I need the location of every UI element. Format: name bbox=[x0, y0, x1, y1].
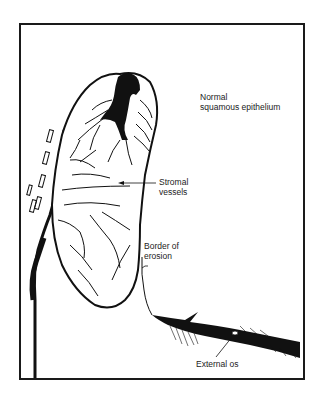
ectropion-outline bbox=[52, 73, 157, 308]
label-normal-epithelium: Normal squamous epithelium bbox=[200, 92, 280, 112]
cervix-diagram: Normal squamous epithelium Stromal vesse… bbox=[0, 0, 317, 402]
label-external-os: External os bbox=[196, 359, 239, 369]
gland-crypts bbox=[27, 130, 54, 213]
label-line: erosion bbox=[144, 251, 179, 261]
label-line: Stromal bbox=[159, 177, 188, 187]
label-line: Normal bbox=[200, 92, 280, 102]
label-line: vessels bbox=[159, 187, 188, 197]
label-line: External os bbox=[196, 359, 239, 369]
label-line: Border of bbox=[144, 241, 179, 251]
label-stromal-vessels: Stromal vessels bbox=[159, 177, 188, 197]
label-border-of-erosion: Border of erosion bbox=[144, 241, 179, 261]
external-os-lip bbox=[152, 312, 300, 358]
label-line: squamous epithelium bbox=[200, 102, 280, 112]
cervix-illustration bbox=[0, 0, 317, 402]
external-os-opening bbox=[232, 331, 238, 335]
external-os-pointer bbox=[216, 337, 232, 357]
